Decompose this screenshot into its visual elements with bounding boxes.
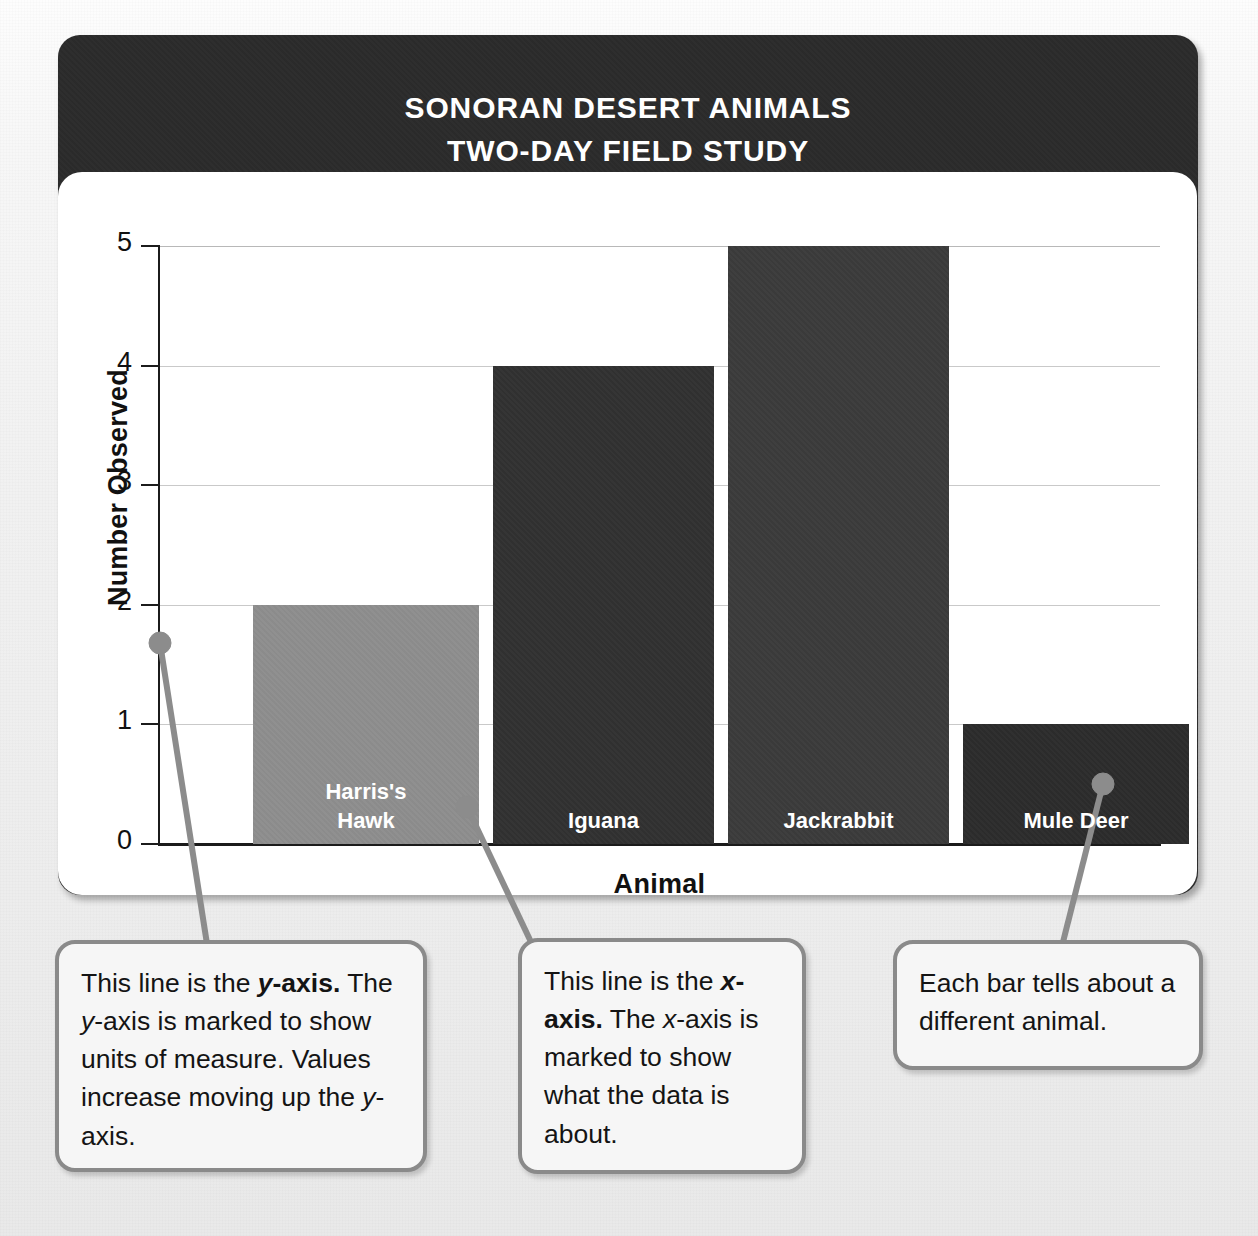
bar-label: Harris's Hawk [253, 777, 479, 836]
y-tick-label-0: 0 [92, 825, 132, 856]
callout-bars-text: Each bar tells about a different animal. [919, 968, 1175, 1036]
callout-bars: Each bar tells about a different animal. [893, 940, 1203, 1070]
plot-panel: Number Observed 012345 Harris's HawkIgua… [58, 172, 1197, 895]
x-axis-title: Animal [158, 869, 1161, 900]
bar-mule-deer[interactable]: Mule Deer [963, 724, 1189, 844]
callout-y-axis-text: This line is the y-axis. The y-axis is m… [81, 968, 393, 1151]
gridline-5 [160, 246, 1160, 247]
bar-label: Mule Deer [963, 806, 1189, 836]
callout-x-axis: This line is the x-axis. The x-axis is m… [518, 938, 806, 1174]
y-tick-label-5: 5 [92, 227, 132, 258]
cutoff-body-text: information. [66, 0, 282, 8]
y-axis-line [158, 246, 160, 846]
bar-harris-s-hawk[interactable]: Harris's Hawk [253, 605, 479, 844]
bar-jackrabbit[interactable]: Jackrabbit [728, 246, 949, 844]
y-tick-label-3: 3 [92, 466, 132, 497]
graph-card: SONORAN DESERT ANIMALS TWO-DAY FIELD STU… [58, 35, 1198, 895]
y-tick-label-2: 2 [92, 586, 132, 617]
bar-iguana[interactable]: Iguana [493, 366, 714, 844]
y-tick-label-4: 4 [92, 347, 132, 378]
callout-y-axis: This line is the y-axis. The y-axis is m… [55, 940, 427, 1172]
bar-label: Iguana [493, 806, 714, 836]
bar-label: Jackrabbit [728, 806, 949, 836]
callout-x-axis-text: This line is the x-axis. The x-axis is m… [544, 966, 759, 1149]
graph-title: SONORAN DESERT ANIMALS TWO-DAY FIELD STU… [58, 87, 1198, 172]
y-tick-label-1: 1 [92, 705, 132, 736]
